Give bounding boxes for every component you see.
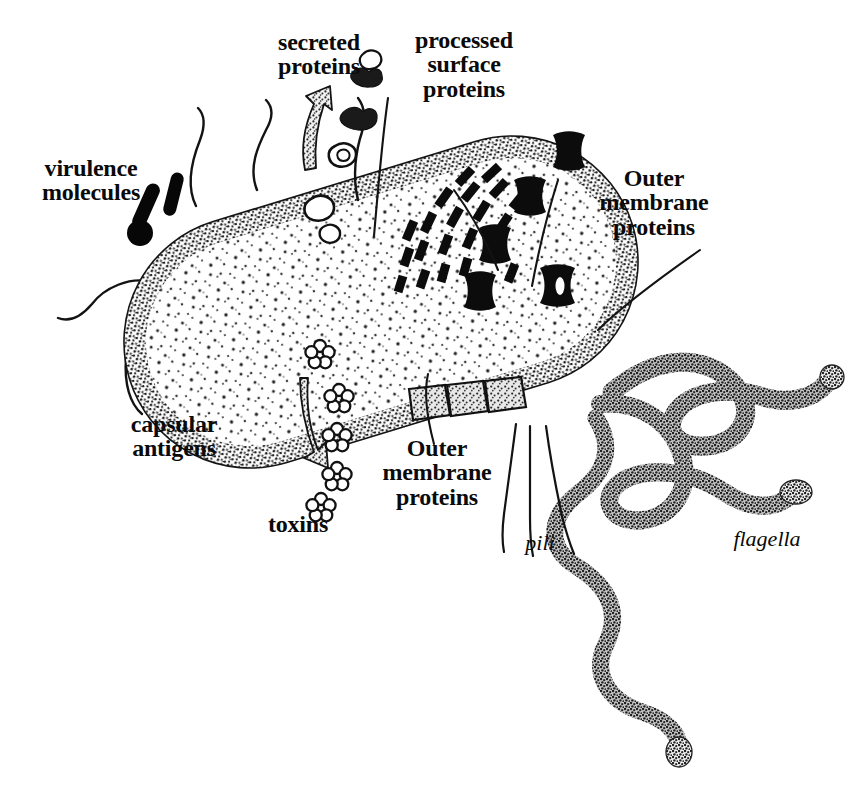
virulence-molecule-sphere [127,220,153,246]
label-toxins: toxins [250,512,346,536]
flagella-group [555,362,844,767]
label-virulence-molecules: virulence molecules [16,156,166,205]
label-capsular-antigens: capsular antigens [112,412,236,461]
label-processed-surface-proteins: processed surface proteins [398,28,530,101]
label-flagella: flagella [712,528,822,550]
label-outer-membrane-proteins-bottom: Outer membrane proteins [370,436,504,509]
label-outer-membrane-proteins-right: Outer membrane proteins [586,166,722,239]
label-pili: pili [505,532,575,554]
figure-canvas: virulence molecules secreted proteins pr… [0,0,857,803]
label-secreted-proteins: secreted proteins [254,30,384,79]
diagram-artwork [0,0,857,803]
